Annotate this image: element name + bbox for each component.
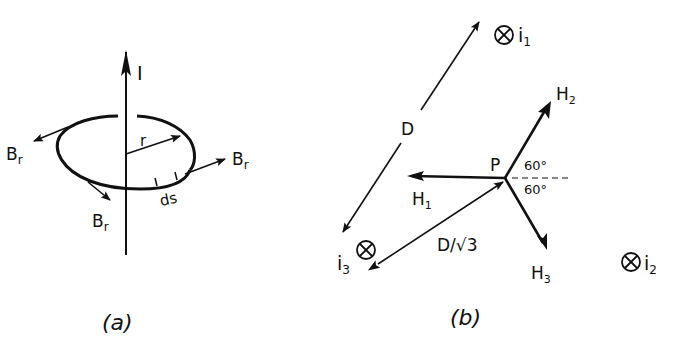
i3-label: i3 xyxy=(337,252,350,277)
angle-upper-label: 60° xyxy=(524,158,547,173)
caption-b: (b) xyxy=(450,305,481,330)
radius-label: r xyxy=(140,132,147,150)
current-label: I xyxy=(137,62,143,84)
field-label-left: Br xyxy=(6,144,23,167)
h3-label: H3 xyxy=(531,263,551,286)
radius-arrow xyxy=(126,136,180,154)
diagram-canvas: I r ds Br Br Br (a) D P H1 H2 xyxy=(0,0,680,342)
ds-tick-2 xyxy=(175,172,177,180)
h2-arrow-icon xyxy=(538,101,551,119)
field-label-bottom: Br xyxy=(92,211,109,234)
angle-lower-label: 60° xyxy=(524,182,547,197)
i1-label: i1 xyxy=(518,24,531,49)
conductor-i3: i3 xyxy=(337,241,375,277)
caption-a: (a) xyxy=(102,310,133,335)
loop-path xyxy=(57,116,190,189)
distance-label: D xyxy=(401,119,414,139)
figure: I r ds Br Br Br (a) D P H1 H2 xyxy=(0,0,680,342)
h1-label: H1 xyxy=(412,189,432,212)
distance-arrow-upper xyxy=(421,22,479,110)
distance-arrow-lower xyxy=(343,143,401,232)
field-label-right: Br xyxy=(232,149,249,172)
distance-to-p-label: D/√3 xyxy=(437,235,477,255)
i2-label: i2 xyxy=(644,252,657,277)
ds-tick-1 xyxy=(155,178,157,186)
conductor-i1: i1 xyxy=(495,24,531,49)
point-p-label: P xyxy=(490,155,500,175)
h2-label: H2 xyxy=(556,84,576,107)
panel-a: I r ds Br Br Br (a) xyxy=(6,50,249,335)
conductor-i2: i2 xyxy=(622,252,657,277)
h1-vector xyxy=(412,176,505,178)
panel-b: D P H1 H2 H3 60° 60° D/√3 i1 xyxy=(337,22,657,330)
ds-label: ds xyxy=(158,189,179,210)
